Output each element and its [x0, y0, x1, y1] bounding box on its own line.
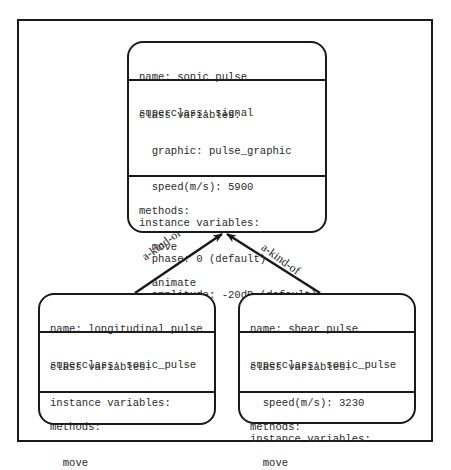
method: move [139, 241, 325, 253]
methods-header: methods: [250, 421, 414, 433]
class-box-sonic-pulse: name: sonic_pulse superclass: signal cla… [127, 41, 327, 233]
class-header: name: sonic_pulse superclass: signal [129, 43, 325, 79]
class-box-shear-pulse: name: shear_pulse superclass: sonic_puls… [238, 293, 416, 424]
methods-header: methods: [50, 421, 214, 433]
class-name: name: longitudinal_pulse [50, 323, 214, 335]
class-box-longitudinal-pulse: name: longitudinal_pulse superclass: son… [38, 293, 216, 425]
class-vars-header: class variables: [139, 109, 325, 121]
class-variables-section: class variables: graphic: pulse_graphic … [129, 79, 325, 175]
method: move [50, 457, 214, 469]
class-header: name: shear_pulse superclass: sonic_puls… [240, 295, 414, 331]
class-var: graphic: pulse_graphic [139, 145, 325, 157]
method: move [250, 457, 414, 469]
class-header: name: longitudinal_pulse superclass: son… [40, 295, 214, 331]
method: animate [139, 277, 325, 289]
methods-header: methods: [139, 205, 325, 217]
